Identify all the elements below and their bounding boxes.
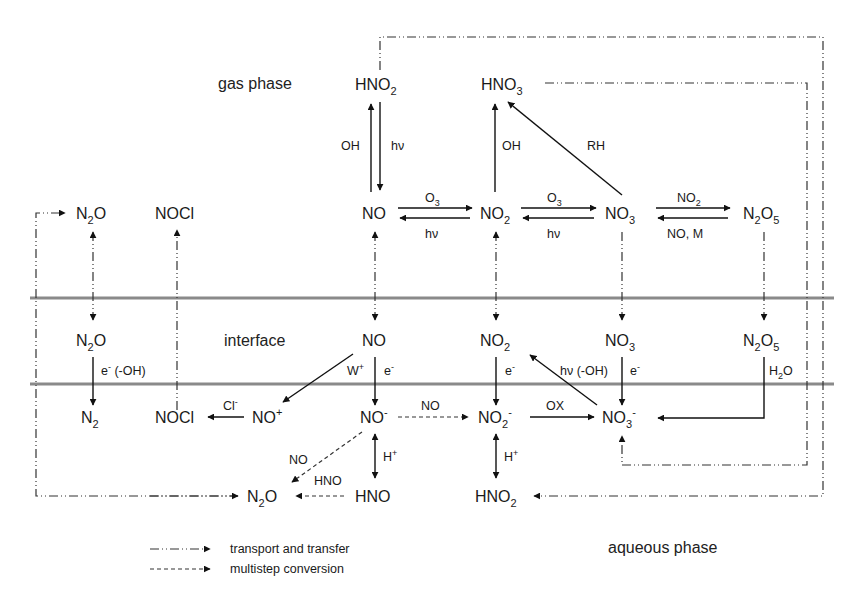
label-hno-to-n2o: HNO	[314, 474, 342, 488]
label-hv-hno2: hν	[391, 139, 404, 153]
label-no-m: NO, M	[667, 227, 703, 241]
aqueous-no-plus: NO+	[252, 406, 282, 426]
label-hv-no3-no2: hν	[547, 227, 560, 241]
arrow-no3-minus-to-no2	[530, 355, 597, 405]
label-oh-hno2: OH	[341, 139, 360, 153]
gas-n2o: N2O	[76, 205, 106, 226]
gas-phase-label: gas phase	[218, 75, 292, 92]
label-hv-no2-no: hν	[425, 227, 438, 241]
label-e-no2: e-	[505, 362, 515, 378]
interface-label: interface	[224, 332, 285, 349]
legend-multistep-label: multistep conversion	[230, 562, 344, 576]
aqueous-hno2: HNO2	[475, 488, 517, 509]
gas-hno3: HNO3	[481, 76, 523, 97]
gas-no2: NO2	[480, 205, 510, 226]
aqueous-no2-minus: NO2-	[478, 406, 512, 430]
aqueous-hno: HNO	[355, 488, 391, 505]
label-h2o: H2O	[769, 364, 793, 381]
gas-no: NO	[362, 205, 386, 222]
aqueous-phase-label: aqueous phase	[608, 539, 718, 556]
gas-no3: NO3	[605, 205, 635, 226]
aqueous-n2o: N2O	[247, 488, 277, 509]
label-oh-hno3: OH	[502, 139, 521, 153]
label-e-no3: e-	[630, 362, 640, 378]
transport-hno2-to-aqueous-hno2	[380, 37, 823, 496]
gas-nocl: NOCl	[155, 205, 194, 222]
label-hv-oh: hν (-OH)	[560, 364, 608, 378]
interface-n2o5: N2O5	[743, 332, 779, 353]
label-w-plus: W+	[347, 362, 364, 378]
interface-n2o: N2O	[76, 332, 106, 353]
label-ox: OX	[546, 399, 565, 413]
label-e-no: e-	[384, 362, 394, 378]
label-no-conversion: NO	[421, 399, 440, 413]
legend-transport-label: transport and transfer	[230, 542, 350, 556]
label-e-oh-n2o: e- (-OH)	[101, 362, 146, 378]
arrow-no-to-no-plus	[283, 354, 353, 402]
arrow-n2o5-to-no3-minus	[658, 357, 764, 418]
transport-hno3-to-no3-minus	[545, 83, 807, 465]
gas-hno2: HNO2	[355, 76, 397, 97]
label-o3-no-no2: O3	[425, 191, 440, 208]
legend: transport and transfer multistep convers…	[150, 542, 350, 576]
aqueous-no3-minus: NO3-	[602, 406, 636, 430]
label-h-plus-no2: H+	[504, 448, 518, 464]
label-o3-no2-no3: O3	[547, 191, 562, 208]
gas-n2o5: N2O5	[743, 205, 779, 226]
label-cl-minus: Cl-	[223, 397, 238, 413]
transport-aqueous-n2o-to-gas	[36, 213, 238, 496]
label-no-to-n2o: NO	[289, 453, 308, 467]
label-h-plus-no: H+	[383, 448, 397, 464]
interface-no2: NO2	[480, 332, 510, 353]
label-rh: RH	[587, 139, 605, 153]
aqueous-no-minus: NO-	[360, 406, 388, 426]
interface-no3: NO3	[605, 332, 635, 353]
label-no2-no3-n2o5: NO2	[677, 191, 701, 208]
aqueous-n2: N2	[81, 409, 99, 430]
nitrogen-chemistry-diagram: gas phase interface aqueous phase HNO2 H…	[0, 0, 854, 599]
aqueous-nocl: NOCl	[155, 409, 194, 426]
interface-no: NO	[362, 332, 386, 349]
